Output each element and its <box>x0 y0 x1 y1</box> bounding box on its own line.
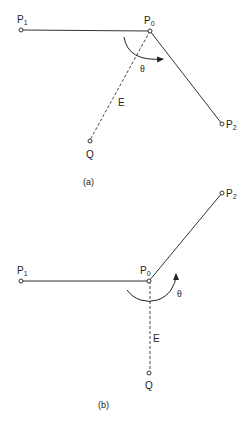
label-theta: θ <box>140 63 145 74</box>
segment-p0-p2 <box>150 31 222 124</box>
label-e: E <box>153 333 160 344</box>
label-p2: P2 <box>226 188 237 200</box>
label-q: Q <box>145 380 153 391</box>
caption-a: (a) <box>83 177 94 187</box>
label-p1: P1 <box>17 14 28 26</box>
point-p1 <box>19 279 23 283</box>
label-p0: P0 <box>140 265 151 277</box>
label-p2: P2 <box>226 119 237 131</box>
point-p1 <box>19 28 23 32</box>
label-q: Q <box>86 149 94 160</box>
label-p0: P0 <box>144 15 155 27</box>
label-p1: P1 <box>17 265 28 277</box>
dashed-segment-e <box>90 31 150 140</box>
point-q <box>147 371 151 375</box>
point-p2 <box>220 191 224 195</box>
caption-b: (b) <box>98 400 109 410</box>
figure-b: P1 P0 P2 Q E θ (b) <box>17 188 237 410</box>
point-q <box>88 139 92 143</box>
label-theta: θ <box>177 288 182 299</box>
label-e: E <box>118 97 125 108</box>
segment-p0-p2 <box>149 193 222 281</box>
segment-p1-p0 <box>21 30 150 31</box>
point-p2 <box>220 122 224 126</box>
point-p0 <box>147 279 151 283</box>
diagram-canvas: P1 P0 P2 Q E θ (a) P1 P0 P2 Q E θ (b) <box>0 0 251 422</box>
point-p0 <box>148 29 152 33</box>
figure-a: P1 P0 P2 Q E θ (a) <box>17 14 237 187</box>
